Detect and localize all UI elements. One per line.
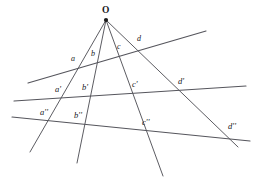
transversal-3 bbox=[12, 117, 250, 141]
point-label-tier3-4: d'' bbox=[228, 122, 236, 131]
point-label-tier2-3: c' bbox=[132, 80, 138, 89]
label-apex-o: O bbox=[102, 6, 110, 16]
point-label-tier3-2: b'' bbox=[74, 111, 82, 120]
apex-point-o bbox=[104, 18, 108, 22]
point-label-tier1-3: c bbox=[117, 43, 121, 51]
ray-c bbox=[106, 20, 163, 176]
point-label-tier2-4: d' bbox=[178, 77, 184, 86]
point-label-tier3-3: c'' bbox=[142, 118, 150, 127]
ray-a bbox=[30, 20, 106, 152]
figure-canvas bbox=[0, 0, 255, 189]
transversal-2 bbox=[14, 86, 246, 101]
point-label-tier2-1: a' bbox=[55, 85, 61, 94]
geometry-figure: O abcd a'b'c'd' a''b''c''d'' bbox=[0, 0, 255, 189]
point-label-tier1-2: b bbox=[91, 50, 95, 58]
point-label-tier2-2: b' bbox=[82, 83, 88, 92]
point-label-tier1-1: a bbox=[71, 55, 75, 63]
point-label-tier1-4: d bbox=[137, 35, 141, 43]
point-label-tier3-1: a'' bbox=[40, 108, 48, 117]
